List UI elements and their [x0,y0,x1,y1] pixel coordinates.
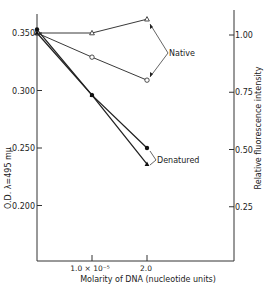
chart-container: 0.2000.2500.3000.3500.250.500.751.001.0 … [0,0,266,289]
y2-tick-label: 1.00 [235,31,253,40]
arrow-head-icon [150,72,153,77]
series-line [37,33,147,164]
series-line [37,30,147,148]
x-tick-label: 1.0 × 10⁻⁵ [70,264,110,273]
native-pointer-line [150,53,168,77]
y2-tick-label: 0.50 [235,146,253,155]
denatured-pointer-line [150,151,156,160]
native-annotation: Native [169,49,195,58]
x-tick-label: 2.0 [140,264,152,273]
denatured-pointer-line [150,160,156,165]
y2-axis-label: Relative fluorescence intensity [254,66,263,189]
y-tick-label: 0.300 [12,87,35,96]
open-circle-marker [90,55,94,59]
denatured-annotation: Denatured [157,156,199,165]
y2-tick-label: 0.75 [235,88,253,97]
open-circle-marker [145,78,149,82]
y-tick-label: 0.350 [12,29,35,38]
filled-circle-marker [145,146,149,150]
y-tick-label: 0.250 [12,144,35,153]
y-axis-label: O.D. λ=495 mμ [4,147,13,209]
y-tick-label: 0.200 [12,202,35,211]
y2-tick-label: 0.25 [235,203,253,212]
open-triangle-marker [145,17,150,21]
native-pointer-line [150,24,168,53]
x-axis-label: Molarity of DNA (nucleotide units) [80,275,216,284]
chart-svg: 0.2000.2500.3000.3500.250.500.751.001.0 … [0,0,266,289]
